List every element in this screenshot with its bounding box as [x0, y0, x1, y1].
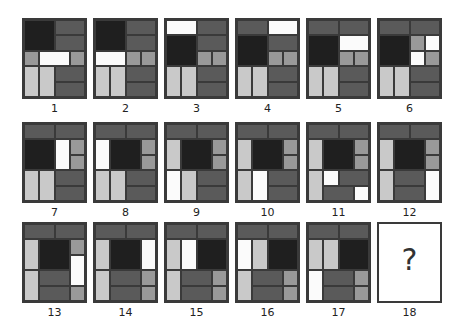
tile-cell: [425, 35, 440, 50]
option-tile[interactable]: [306, 222, 371, 303]
tile-number-label: 16: [235, 306, 300, 319]
tile-cell: [24, 170, 39, 201]
tile-cell: [268, 51, 283, 66]
tile-cell: [55, 186, 86, 201]
tile-cell: [24, 270, 39, 301]
option-tile[interactable]: [235, 18, 300, 99]
tile-cell: [379, 139, 394, 170]
tile-cell: [339, 224, 370, 239]
tile-cell: [55, 20, 86, 35]
option-tile[interactable]: [93, 18, 158, 99]
tile-cell: [181, 286, 212, 301]
tile-cell: [55, 35, 86, 50]
tile-cell: [237, 270, 252, 301]
tile-cell: [308, 139, 323, 170]
tile-number-label: 17: [306, 306, 371, 319]
tile-cell: [323, 239, 338, 270]
tile-cell: [166, 35, 197, 66]
answer-tile[interactable]: ?: [377, 222, 442, 303]
tile-cell: [283, 270, 298, 285]
option-tile[interactable]: [93, 122, 158, 203]
tile-cell: [55, 139, 70, 170]
tile-cell: [39, 270, 70, 285]
tile-cell: [24, 51, 39, 66]
tile-cell: [394, 170, 425, 185]
tile-cell: [181, 170, 196, 201]
tile-cell: [268, 66, 299, 81]
option-tile[interactable]: [22, 18, 87, 99]
tile-cell: [24, 66, 39, 97]
tile-cell: [268, 35, 299, 50]
tile-cell: [237, 20, 268, 35]
tile-cell: [354, 139, 369, 154]
tile-cell: [24, 239, 39, 270]
tile-cell: [181, 139, 212, 170]
option-tile[interactable]: [164, 18, 229, 99]
tile-cell: [308, 239, 323, 270]
tile-cell: [166, 20, 197, 35]
option-tile[interactable]: [306, 18, 371, 99]
tile-cell: [141, 51, 156, 66]
tile-number-label: 9: [164, 206, 229, 219]
option-tile[interactable]: [164, 122, 229, 203]
tile-cell: [425, 170, 440, 201]
tile-cell: [323, 66, 338, 97]
tile-cell: [110, 270, 141, 285]
tile-cell: [308, 270, 323, 301]
tile-cell: [425, 155, 440, 170]
tile-cell: [268, 82, 299, 97]
option-tile[interactable]: [93, 222, 158, 303]
tile-cell: [323, 270, 354, 285]
option-tile[interactable]: [377, 18, 442, 99]
tile-number-label: 18: [377, 306, 442, 319]
tile-cell: [379, 124, 410, 139]
tile-cell: [39, 286, 70, 301]
tile-cell: [252, 139, 283, 170]
tile-cell: [379, 20, 410, 35]
tile-cell: [181, 270, 212, 285]
option-tile[interactable]: [22, 122, 87, 203]
tile-cell: [197, 35, 228, 50]
tile-cell: [141, 239, 156, 270]
tile-cell: [394, 66, 409, 97]
option-tile[interactable]: [22, 222, 87, 303]
tile-cell: [197, 170, 228, 185]
tile-number-label: 12: [377, 206, 442, 219]
tile-cell: [197, 124, 228, 139]
tile-cell: [181, 66, 196, 97]
tile-cell: [252, 286, 283, 301]
tile-cell: [95, 20, 126, 51]
option-tile[interactable]: [164, 222, 229, 303]
tile-cell: [166, 170, 181, 201]
tile-number-label: 15: [164, 306, 229, 319]
tile-cell: [55, 170, 86, 185]
tile-cell: [308, 66, 323, 97]
tile-cell: [283, 139, 298, 154]
tile-cell: [339, 51, 354, 66]
option-tile[interactable]: [377, 122, 442, 203]
tile-cell: [212, 155, 227, 170]
tile-cell: [70, 239, 85, 254]
tile-cell: [197, 51, 212, 66]
tile-cell: [39, 170, 54, 201]
option-tile[interactable]: [306, 122, 371, 203]
option-tile[interactable]: [235, 122, 300, 203]
tile-cell: [39, 51, 70, 66]
tile-cell: [55, 66, 86, 81]
tile-cell: [410, 20, 441, 35]
tile-number-label: 11: [306, 206, 371, 219]
tile-cell: [394, 139, 425, 170]
tile-number-label: 3: [164, 102, 229, 115]
tile-cell: [354, 186, 369, 201]
tile-cell: [126, 186, 157, 201]
option-tile[interactable]: [235, 222, 300, 303]
tile-cell: [95, 124, 126, 139]
tile-cell: [95, 270, 110, 301]
tile-cell: [126, 51, 141, 66]
tile-cell: [181, 239, 196, 270]
tile-cell: [141, 155, 156, 170]
tile-cell: [197, 66, 228, 81]
tile-cell: [55, 124, 86, 139]
tile-cell: [425, 139, 440, 154]
tile-cell: [339, 20, 370, 35]
